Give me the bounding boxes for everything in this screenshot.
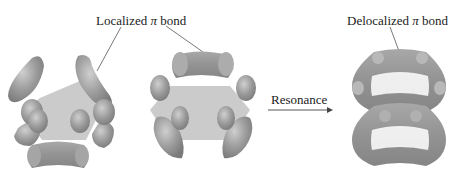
kekule-structure-2 xyxy=(150,52,256,159)
localized-label-suffix: bond xyxy=(157,13,186,28)
leader-line-localized-1 xyxy=(97,27,121,71)
localized-pi-bond-label: Localized π bond xyxy=(96,13,186,29)
delocalized-label-prefix: Delocalized xyxy=(347,13,412,28)
delocalized-structure xyxy=(352,49,446,166)
delocalized-pi-bond-label: Delocalized π bond xyxy=(347,13,448,29)
localized-label-prefix: Localized xyxy=(96,13,151,28)
kekule-structure-1 xyxy=(8,55,115,168)
delocalized-label-suffix: bond xyxy=(419,13,448,28)
leader-line-localized-2 xyxy=(166,26,203,52)
resonance-label: Resonance xyxy=(271,92,327,108)
leader-line-delocalized xyxy=(390,27,399,51)
